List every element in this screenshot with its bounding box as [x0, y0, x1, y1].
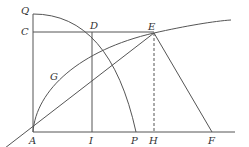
- line-AE-extended: [5, 33, 154, 147]
- label-P: P: [130, 135, 138, 146]
- label-Q: Q: [21, 5, 29, 16]
- label-I: I: [88, 135, 94, 146]
- label-G: G: [50, 71, 58, 82]
- label-H: H: [148, 135, 158, 146]
- geometry-diagram: Q C D E G A I P H F: [0, 0, 249, 147]
- label-D: D: [89, 20, 98, 31]
- label-E: E: [147, 21, 156, 32]
- line-EF: [154, 33, 212, 132]
- label-F: F: [207, 135, 216, 146]
- label-C: C: [21, 26, 29, 37]
- label-A: A: [28, 135, 36, 146]
